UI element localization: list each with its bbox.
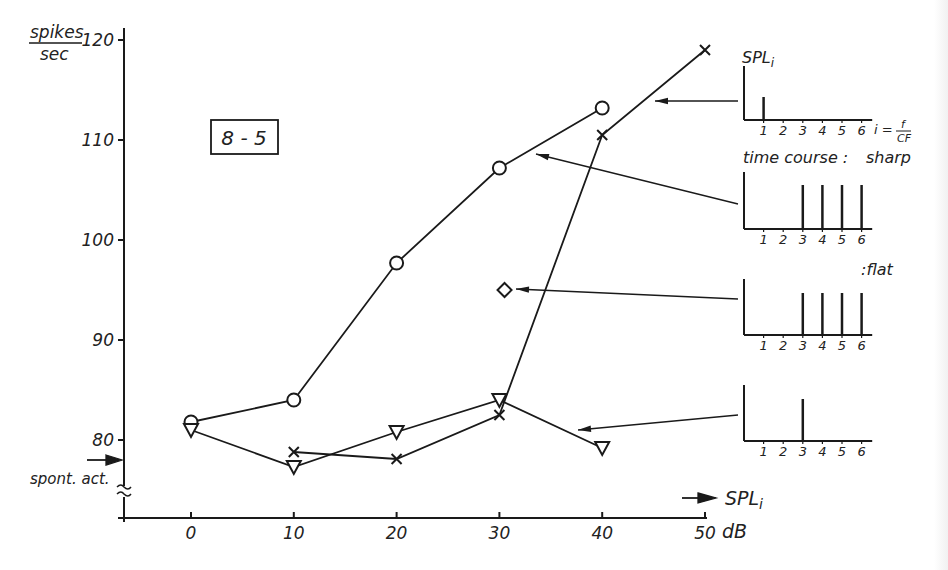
- panel-id-label: 8 - 5: [221, 126, 266, 150]
- inset-tick-label: 1: [759, 338, 767, 353]
- inset-tick-label: 4: [818, 123, 826, 138]
- y-tick-label: 90: [92, 330, 114, 350]
- data-markers: [184, 45, 710, 474]
- x-tick-label: 50: [694, 523, 716, 543]
- inset-tick-label: 3: [799, 123, 807, 138]
- y-tick-label: 100: [82, 230, 114, 250]
- inset-tick-label: 2: [779, 338, 787, 353]
- inset-tick-label: 2: [779, 123, 787, 138]
- spectrum-inset-2: 123456: [744, 172, 872, 247]
- triangle-down-marker-icon: [287, 461, 301, 474]
- pointer-arrowhead-icon: [655, 98, 668, 104]
- inset-tick-label: 4: [818, 338, 826, 353]
- x-tick-label: 30: [489, 523, 511, 543]
- spectrum-inset-4: 123456: [744, 385, 872, 459]
- scan-edge: [934, 0, 948, 570]
- inset-tick-label: 3: [799, 232, 807, 247]
- pointer-arrow-3: [516, 289, 738, 299]
- circle-marker-icon: [493, 162, 506, 175]
- inset-tick-label: 5: [838, 123, 846, 138]
- pointer-arrowhead-icon: [578, 426, 591, 432]
- cross-marker-icon: [700, 45, 710, 55]
- series-lines: [191, 50, 705, 467]
- spont-arrowhead-icon: [106, 455, 122, 465]
- y-axis-label-spikes: spikes: [30, 22, 84, 42]
- x-tick-label: 10: [283, 523, 305, 543]
- spont-act-label: spont. act.: [30, 470, 110, 488]
- tick-labels: 809010011012001020304050: [82, 30, 716, 543]
- x-axis-unit: dB: [722, 520, 747, 542]
- triangle-down-marker-icon: [390, 426, 404, 439]
- y-axis-label-sec: sec: [40, 44, 69, 64]
- inset-tick-label: 5: [838, 444, 846, 459]
- cross-marker-icon: [494, 410, 504, 420]
- inset-xlabel-f: f: [901, 118, 907, 131]
- y-tick-label: 110: [82, 130, 114, 150]
- pointer-arrowhead-icon: [536, 154, 549, 160]
- inset-tick-label: 1: [759, 123, 767, 138]
- flat-label: :flat: [861, 260, 894, 279]
- inset-tick-label: 6: [857, 232, 865, 247]
- x-tick-label: 0: [186, 523, 197, 543]
- pointer-arrow-4: [578, 415, 738, 430]
- inset-tick-label: 1: [759, 444, 767, 459]
- x-axis-label: SPLi: [725, 487, 763, 512]
- pointer-arrow-2: [536, 154, 738, 204]
- inset-tick-label: 1: [759, 232, 767, 247]
- inset-tick-label: 3: [799, 338, 807, 353]
- spectrum-inset-1: 123456: [744, 66, 872, 138]
- sharp-label: sharp: [866, 148, 911, 167]
- x-label-arrowhead-icon: [698, 493, 716, 503]
- circle-marker-icon: [390, 257, 403, 270]
- inset-tick-label: 6: [857, 444, 865, 459]
- inset-tick-label: 4: [818, 232, 826, 247]
- pointer-arrows: [87, 98, 738, 503]
- inset-ylabel: SPLi: [742, 48, 775, 70]
- x-tick-label: 20: [386, 523, 408, 543]
- inset-tick-label: 6: [857, 123, 865, 138]
- inset-tick-label: 2: [779, 232, 787, 247]
- cross-marker-icon: [597, 130, 607, 140]
- inset-tick-label: 3: [799, 444, 807, 459]
- triangle-down-marker-icon: [595, 442, 609, 455]
- inset-tick-label: 5: [838, 338, 846, 353]
- inset-tick-label: 6: [857, 338, 865, 353]
- diamond-marker-icon: [498, 283, 512, 297]
- triangle-down-marker-icon: [184, 424, 198, 437]
- y-tick-label: 80: [92, 430, 114, 450]
- circle-marker-icon: [596, 102, 609, 115]
- chart: 809010011012001020304050 123456123456123…: [0, 0, 948, 570]
- x-tick-label: 40: [591, 523, 613, 543]
- y-tick-label: 120: [82, 30, 114, 50]
- circle-marker-icon: [287, 394, 300, 407]
- time-course-label: time course :: [743, 148, 848, 167]
- spectrum-insets: 123456123456123456123456: [744, 66, 872, 459]
- inset-tick-label: 2: [779, 444, 787, 459]
- axes: [117, 28, 707, 522]
- spectrum-inset-3: 123456: [744, 279, 872, 353]
- inset-xlabel-i: i =: [874, 122, 893, 137]
- axis-break-icon: [117, 485, 131, 496]
- inset-tick-label: 5: [838, 232, 846, 247]
- inset-xlabel-cf: CF: [897, 132, 912, 145]
- inset-tick-label: 4: [818, 444, 826, 459]
